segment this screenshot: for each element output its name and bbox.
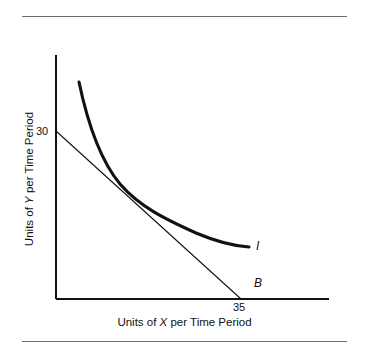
x-tick-label-35: 35	[233, 301, 245, 313]
y-axis-label-suffix: per Time Period	[23, 112, 35, 196]
plot-area	[0, 0, 369, 348]
figure-container: 30 35 I B Units of X per Time Period Uni…	[0, 0, 369, 348]
y-axis-label: Units of Y per Time Period	[23, 112, 35, 246]
indifference-curve	[79, 82, 249, 247]
budget-line	[56, 131, 241, 299]
indifference-curve-label: I	[256, 240, 259, 253]
x-axis-label: Units of X per Time Period	[0, 316, 369, 329]
x-axis-label-prefix: Units of	[117, 316, 159, 328]
y-axis-label-wrapper: Units of Y per Time Period	[19, 99, 37, 259]
x-axis-label-suffix: per Time Period	[167, 316, 251, 328]
y-axis-label-prefix: Units of	[23, 204, 35, 246]
budget-line-label: B	[254, 277, 262, 290]
y-tick-label-30: 30	[36, 125, 48, 137]
y-axis-label-variable: Y	[23, 196, 35, 204]
